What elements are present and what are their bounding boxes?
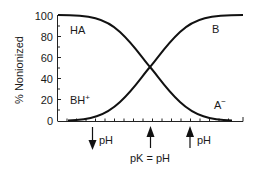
y-tick-60: 60: [41, 52, 53, 64]
arrow-right-label: pH: [197, 134, 211, 146]
ionization-diagram: 100 80 60 40 20 0 % Nonionized HA B BH+ …: [0, 0, 254, 172]
label-b: B: [212, 23, 219, 35]
y-tick-80: 80: [41, 31, 53, 43]
arrow-down-icon: [89, 127, 97, 150]
arrow-up-icon-right: [186, 126, 194, 148]
y-ticks: [58, 16, 62, 111]
label-bh: BH+: [70, 93, 90, 106]
arrow-up-icon: [147, 126, 155, 148]
label-ha: HA: [70, 24, 86, 36]
y-tick-40: 40: [41, 73, 53, 85]
y-tick-20: 20: [41, 94, 53, 106]
arrow-center-label: pK = pH: [130, 152, 170, 164]
y-axis-title: % Nonionized: [13, 36, 25, 104]
y-tick-0: 0: [47, 115, 53, 127]
label-a: A−: [214, 97, 226, 111]
arrow-left-label: pH: [99, 134, 113, 146]
y-tick-100: 100: [35, 10, 53, 22]
